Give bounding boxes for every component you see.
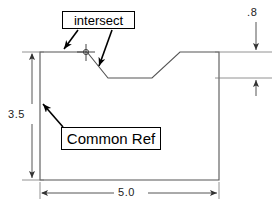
technical-drawing-svg [0, 0, 280, 206]
callout-common-ref-label: Common Ref [67, 131, 155, 146]
callout-common-ref[interactable]: Common Ref [61, 127, 161, 150]
leader-common-ref [43, 104, 63, 127]
dimension-height-value: 3.5 [8, 108, 25, 120]
dimension-width-value: 5.0 [118, 186, 135, 198]
drawing-canvas: intersect Common Ref 3.5 5.0 .8 [0, 0, 280, 206]
extension-lines [22, 52, 272, 199]
callout-intersect[interactable]: intersect [62, 11, 135, 29]
part-outline [40, 52, 219, 180]
leader-lines [43, 30, 112, 127]
leader-intersect-left [64, 30, 78, 49]
leader-intersect-right [99, 30, 112, 66]
dimension-depth-value: .8 [247, 6, 257, 18]
callout-intersect-label: intersect [74, 14, 123, 27]
part-profile-path [40, 52, 219, 180]
